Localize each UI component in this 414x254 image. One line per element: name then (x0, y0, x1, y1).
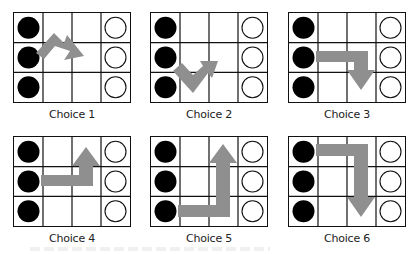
choice-1-diagram (14, 13, 130, 102)
choice-3-panel: Choice 3 (288, 12, 406, 103)
choice-3-diagram (289, 13, 405, 102)
choice-2-diagram (151, 13, 267, 102)
arrow-icon (316, 144, 375, 217)
choice-1-label: Choice 1 (2, 108, 142, 121)
arrow-icon (178, 144, 237, 217)
choice-6-panel: Choice 6 (288, 136, 406, 227)
choice-5-label: Choice 5 (139, 232, 279, 245)
choice-6-diagram (289, 137, 405, 226)
choice-3-grid (288, 12, 406, 103)
cropped-caption-remnant (30, 247, 270, 251)
choice-6-label: Choice 6 (277, 232, 414, 245)
choice-5-grid (150, 136, 268, 227)
choice-1-grid (13, 12, 131, 103)
choice-4-panel: Choice 4 (13, 136, 131, 227)
choice-2-grid (150, 12, 268, 103)
choice-4-label: Choice 4 (2, 232, 142, 245)
arrow-icon (316, 51, 375, 90)
choice-1-panel: Choice 1 (13, 12, 131, 103)
choice-2-panel: Choice 2 (150, 12, 268, 103)
choice-4-grid (13, 136, 131, 227)
choice-2-label: Choice 2 (139, 108, 279, 121)
choice-3-label: Choice 3 (277, 108, 414, 121)
choice-6-grid (288, 136, 406, 227)
choice-5-panel: Choice 5 (150, 136, 268, 227)
choice-5-diagram (151, 137, 267, 226)
choice-4-diagram (14, 137, 130, 226)
